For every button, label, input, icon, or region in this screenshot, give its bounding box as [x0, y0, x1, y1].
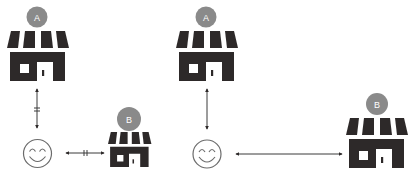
left-panel: A B — [7, 7, 151, 168]
customer-smiley-icon — [24, 140, 52, 168]
badge-a-label: A — [34, 13, 40, 23]
store-a-icon — [7, 31, 69, 81]
badge-a-label: A — [203, 13, 209, 23]
store-a: A — [176, 7, 238, 82]
store-a-icon — [176, 31, 238, 81]
store-b-icon — [108, 132, 151, 167]
badge-b-label: B — [374, 100, 380, 110]
store-b-icon — [346, 118, 408, 168]
store-a: A — [7, 7, 69, 82]
badge-b-label: B — [126, 115, 132, 125]
link-customer-store-a — [34, 89, 40, 128]
right-panel: A B — [176, 7, 408, 169]
diagram-canvas: A B A — [0, 0, 412, 178]
store-b: B — [346, 93, 408, 168]
link-customer-store-b — [66, 150, 104, 156]
store-b: B — [108, 107, 151, 167]
customer-smiley-icon — [193, 140, 221, 168]
